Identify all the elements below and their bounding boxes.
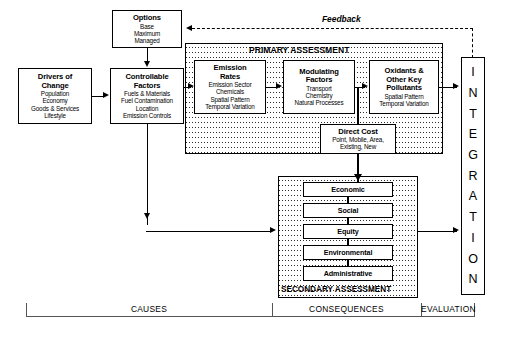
options-title: Options xyxy=(133,14,161,23)
connector-secondary-chain-3 xyxy=(347,238,349,246)
secondary-item-administrative-label: Administrative xyxy=(324,269,373,278)
connector-secondary-chain-2 xyxy=(347,217,349,225)
controllable-line-4: Emission Controls xyxy=(123,112,171,119)
feedback-label: Feedback xyxy=(322,14,361,24)
secondary-item-economic-label: Economic xyxy=(331,185,365,194)
arrowhead-secondary-to-integration xyxy=(453,227,459,233)
feedback-line-vertical xyxy=(472,28,473,58)
modulating-line-3: Natural Processes xyxy=(295,99,344,106)
modulating-line-2: Chemistry xyxy=(306,92,333,99)
emission-line-3: Spatial Pattern xyxy=(210,96,249,103)
connector-to-direct-cost xyxy=(357,87,359,125)
arrowhead-controllable-down xyxy=(144,213,150,219)
options-line-3: Managed xyxy=(134,37,159,44)
drivers-line-2: Economy xyxy=(42,97,67,104)
arrowhead-controllable-to-emission xyxy=(188,83,194,89)
emission-title-line-2: Rates xyxy=(220,73,240,82)
integration-letter-10: O xyxy=(468,253,478,266)
controllable-line-2: Fuel Contamination xyxy=(121,97,173,104)
bracket-line xyxy=(26,316,474,317)
oxidants-pollutants-box[interactable]: Oxidants & Other Key Pollutants Spatial … xyxy=(369,60,439,114)
arrowhead-emission-to-modulating xyxy=(276,83,282,89)
integration-letter-3: T xyxy=(469,108,477,121)
direct-cost-line-2: Existing, New xyxy=(340,143,376,150)
integration-letter-11: N xyxy=(468,273,477,286)
integration-letter-1: I xyxy=(471,66,474,79)
oxidants-title-line-3: Pollutants xyxy=(386,84,422,93)
arrowhead-modulating-to-oxidants xyxy=(362,83,368,89)
modulating-line-1: Transport xyxy=(306,85,331,92)
integration-box[interactable]: I N T E G R A T I O N xyxy=(461,57,485,295)
controllable-title-line-2: Factors xyxy=(134,82,161,91)
controllable-line-3: Location xyxy=(136,105,159,112)
secondary-item-social-label: Social xyxy=(338,206,359,215)
drivers-title-line-2: Change xyxy=(41,82,68,91)
secondary-item-equity-label: Equity xyxy=(337,227,358,236)
bracket-label-evaluation: EVALUATION xyxy=(421,304,474,314)
bracket-label-consequences: CONSEQUENCES xyxy=(272,304,421,314)
arrowhead-feedback xyxy=(186,25,192,31)
feedback-line-horizontal xyxy=(192,28,473,29)
emission-line-2: Chemicals xyxy=(216,88,244,95)
integration-letter-5: G xyxy=(468,149,478,162)
modulating-title-line-2: Factors xyxy=(306,76,333,85)
integration-letter-4: E xyxy=(469,128,477,141)
integration-letter-9: I xyxy=(471,232,474,245)
drivers-line-3: Goods & Services xyxy=(31,105,79,112)
secondary-item-environmental[interactable]: Environmental xyxy=(303,245,393,260)
integration-letter-8: T xyxy=(469,211,477,224)
connector-secondary-to-integration xyxy=(418,231,457,232)
arrowhead-direct-cost-to-secondary xyxy=(354,174,362,181)
diagram-canvas: PRIMARY ASSESSMENT SECONDARY ASSESSMENT … xyxy=(0,0,512,344)
direct-cost-box[interactable]: Direct Cost Point, Mobile, Area, Existin… xyxy=(320,124,396,154)
connector-secondary-chain-1 xyxy=(347,196,349,204)
modulating-factors-box[interactable]: Modulating Factors Transport Chemistry N… xyxy=(283,60,355,114)
connector-options-to-controllable xyxy=(147,48,148,62)
arrowhead-drivers-to-controllable xyxy=(103,92,109,98)
oxidants-line-2: Temporal Variation xyxy=(379,100,428,107)
controllable-line-1: Fuels & Materials xyxy=(124,90,170,97)
drivers-of-change-box[interactable]: Drivers of Change Population Economy Goo… xyxy=(18,68,92,124)
arrowhead-options-to-controllable xyxy=(144,61,150,67)
options-line-1: Base xyxy=(140,23,154,30)
primary-assessment-label: PRIMARY ASSESSMENT xyxy=(249,45,349,55)
options-line-2: Maximum xyxy=(134,30,160,37)
secondary-item-administrative[interactable]: Administrative xyxy=(303,266,393,281)
bracket-label-causes: CAUSES xyxy=(26,304,272,314)
controllable-factors-box[interactable]: Controllable Factors Fuels & Materials F… xyxy=(110,68,184,124)
direct-cost-title: Direct Cost xyxy=(338,128,377,137)
secondary-item-social[interactable]: Social xyxy=(303,203,393,218)
drivers-line-4: Lifestyle xyxy=(44,112,66,119)
integration-letter-2: N xyxy=(468,87,477,100)
secondary-assessment-label: SECONDARY ASSESSMENT xyxy=(281,285,391,294)
connector-controllable-to-secondary xyxy=(146,231,272,232)
arrowhead-controllable-to-secondary xyxy=(270,227,276,233)
drivers-line-1: Population xyxy=(41,90,69,97)
connector-secondary-chain-4 xyxy=(347,259,349,267)
integration-letter-6: R xyxy=(468,170,477,183)
direct-cost-line-1: Point, Mobile, Area, xyxy=(332,136,384,143)
connector-controllable-down xyxy=(147,124,148,225)
oxidants-line-1: Spatial Pattern xyxy=(384,93,423,100)
emission-line-1: Emission Sector xyxy=(208,81,251,88)
arrowhead-oxidants-to-integration xyxy=(453,83,459,89)
options-box[interactable]: Options Base Maximum Managed xyxy=(112,10,182,48)
secondary-item-equity[interactable]: Equity xyxy=(303,224,393,239)
secondary-item-economic[interactable]: Economic xyxy=(303,182,393,197)
emission-line-4: Temporal Variation xyxy=(205,103,254,110)
integration-letter-7: A xyxy=(469,190,477,203)
emission-rates-box[interactable]: Emission Rates Emission Sector Chemicals… xyxy=(194,60,266,114)
secondary-item-environmental-label: Environmental xyxy=(324,248,373,257)
